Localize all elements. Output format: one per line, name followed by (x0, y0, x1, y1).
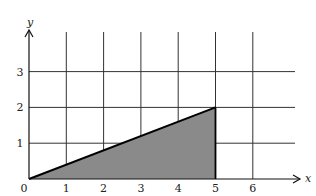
y-axis-label: y (26, 16, 34, 29)
x-tick-label-3: 3 (137, 182, 144, 195)
y-tick-label-2: 2 (17, 101, 24, 114)
x-axis-label: x (305, 172, 312, 185)
x-tick-label-1: 1 (63, 182, 70, 195)
y-tick-label-3: 3 (17, 66, 24, 79)
x-tick-label-4: 4 (175, 182, 182, 195)
x-tick-label-6: 6 (249, 182, 256, 195)
chart: 0123456123xy (0, 0, 316, 196)
x-tick-label-2: 2 (100, 182, 107, 195)
y-tick-label-1: 1 (17, 137, 24, 150)
x-tick-label-5: 5 (212, 182, 219, 195)
x-tick-label-0: 0 (21, 182, 28, 195)
